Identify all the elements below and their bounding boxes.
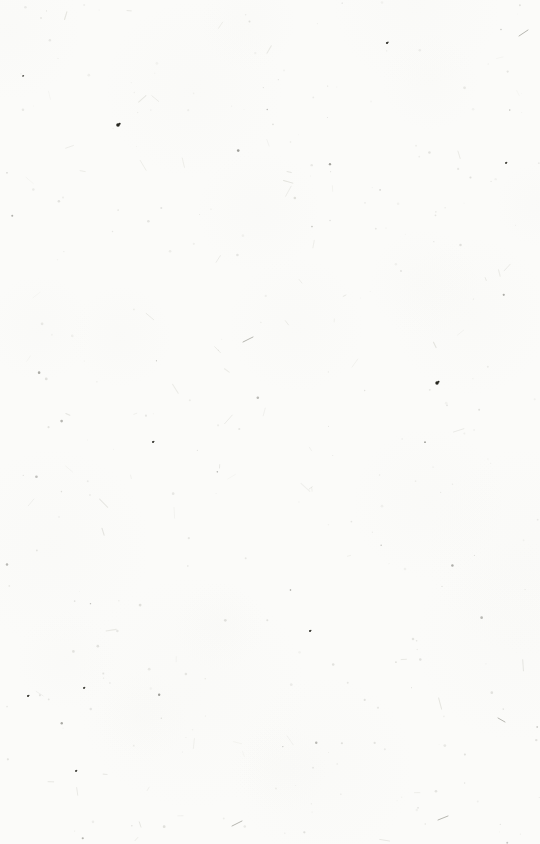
- paper-texture: [0, 0, 540, 844]
- blank-paper-page: [0, 0, 540, 844]
